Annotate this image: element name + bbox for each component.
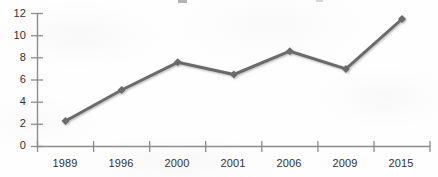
x-tick-label-2000: 2000: [154, 157, 200, 169]
x-tick-label-1996: 1996: [98, 157, 144, 169]
x-tick-label-1989: 1989: [42, 157, 88, 169]
y-tick-label-10: 10: [4, 29, 26, 41]
scan-artifact-mark-secondary: [316, 0, 323, 2]
data-series-line: [66, 19, 403, 121]
y-tick-label-8: 8: [4, 51, 26, 63]
y-tick-label-0: 0: [4, 139, 26, 151]
x-tick-label-2006: 2006: [266, 157, 312, 169]
data-point-markers: [62, 15, 407, 125]
x-tick-label-2001: 2001: [210, 157, 256, 169]
x-tick-label-2015: 2015: [378, 157, 424, 169]
y-tick-label-6: 6: [4, 73, 26, 85]
y-tick-label-2: 2: [4, 117, 26, 129]
y-tick-label-12: 12: [4, 7, 26, 19]
plot-area: [0, 0, 438, 177]
scan-artifact-mark: [178, 0, 187, 3]
data-point-marker: [230, 71, 238, 79]
x-tick-label-2009: 2009: [322, 157, 368, 169]
y-tick-label-4: 4: [4, 95, 26, 107]
line-chart: 12 10 8 6 4 2 0 1989 1996 2000 2001 2006…: [0, 0, 438, 177]
data-point-marker: [286, 47, 294, 55]
